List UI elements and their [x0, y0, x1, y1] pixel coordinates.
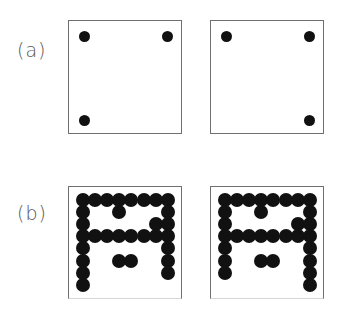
matrix-dot	[161, 266, 175, 280]
matrix-dot	[76, 278, 90, 292]
matrix-dot	[254, 205, 268, 219]
panel-a-right-box	[210, 20, 324, 134]
dot	[221, 31, 232, 42]
panel-b-label: (b)	[17, 202, 47, 224]
dot	[79, 31, 90, 42]
panel-b-right-box	[210, 186, 324, 299]
matrix-dot	[124, 254, 138, 268]
matrix-dot	[266, 254, 280, 268]
dot	[304, 31, 315, 42]
matrix-dot	[112, 205, 126, 219]
panel-b-left-box	[68, 186, 182, 299]
panel-a-left-box	[68, 20, 182, 134]
dot	[79, 115, 90, 126]
dot	[304, 115, 315, 126]
dot	[162, 31, 173, 42]
panel-a-label: (a)	[17, 39, 46, 61]
matrix-dot	[218, 266, 232, 280]
matrix-dot	[303, 278, 317, 292]
